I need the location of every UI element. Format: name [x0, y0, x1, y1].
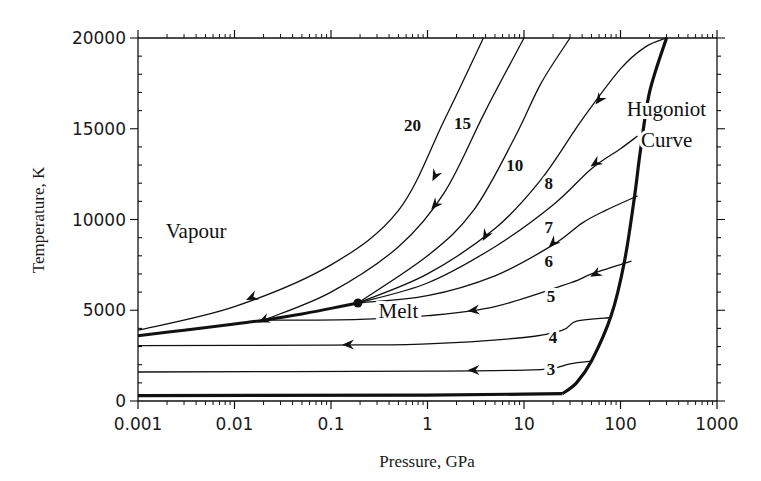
phase-diagram-chart: 0.0010.010.11101001000 05000100001500020… [0, 0, 761, 481]
isentrope-curve-15 [264, 38, 525, 320]
critical-point-marker [353, 298, 362, 307]
y-tick-label: 20000 [72, 28, 126, 48]
curve-label-6: 6 [544, 252, 553, 271]
curve-label-15: 15 [454, 114, 471, 133]
curve-label-10: 10 [506, 156, 523, 175]
x-tick-label: 0.1 [317, 414, 344, 434]
y-axis-tick-labels: 05000100001500020000 [72, 28, 126, 411]
hugoniot-label-line2: Curve [641, 128, 692, 152]
curve-label-20: 20 [404, 116, 421, 135]
curve-label-3: 3 [547, 360, 556, 379]
curve-labels: 201510876543 [404, 114, 558, 379]
x-tick-label: 100 [604, 414, 636, 434]
vapour-region-label: Vapour [166, 219, 227, 243]
x-tick-label: 1 [422, 414, 433, 434]
curve-label-8: 8 [544, 174, 553, 193]
x-axis-title: Pressure, GPa [379, 452, 475, 471]
arrow-icon [428, 168, 442, 183]
x-tick-label: 1000 [695, 414, 738, 434]
arrow-icon [591, 92, 606, 108]
x-axis-tick-labels: 0.0010.010.11101001000 [114, 414, 739, 434]
region-annotations: VapourMeltHugoniotCurve [166, 97, 707, 322]
arrow-icon [467, 365, 479, 375]
isentrope-curve-10 [358, 38, 570, 303]
y-tick-label: 5000 [83, 300, 126, 320]
curve-label-4: 4 [549, 328, 558, 347]
isentrope-curve-4 [138, 318, 611, 346]
y-tick-label: 15000 [72, 119, 126, 139]
curve-label-5: 5 [547, 287, 556, 306]
arrow-icon [478, 228, 493, 243]
y-axis-title: Temperature, K [29, 166, 48, 273]
hugoniot-curve [138, 38, 667, 396]
x-tick-label: 0.01 [216, 414, 254, 434]
x-tick-label: 10 [513, 414, 535, 434]
melt-region-label: Melt [379, 299, 419, 323]
isentrope-curve-3 [138, 361, 592, 372]
hugoniot-label-line1: Hugoniot [627, 97, 707, 121]
x-tick-label: 0.001 [114, 414, 163, 434]
hugoniot-rise [562, 38, 666, 394]
arrow-icon [588, 156, 604, 171]
isentrope-curve-20 [138, 38, 483, 330]
y-tick-label: 10000 [72, 210, 126, 230]
y-tick-label: 0 [115, 391, 126, 411]
curve-label-7: 7 [544, 218, 553, 237]
